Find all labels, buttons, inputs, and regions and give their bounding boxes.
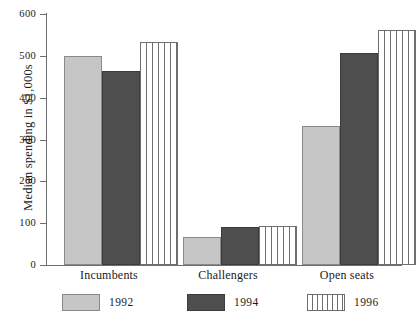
y-tick-label-500: 500 bbox=[19, 50, 36, 61]
bar-open-seats-1992 bbox=[302, 126, 340, 265]
y-tick-label-400: 400 bbox=[19, 92, 36, 103]
y-tick-0 bbox=[40, 265, 46, 266]
bar-open-seats-1994 bbox=[340, 53, 378, 266]
legend-item-1994: 1994 bbox=[187, 292, 259, 312]
bar-open-seats-1996 bbox=[378, 30, 416, 265]
bar-incumbents-1996 bbox=[140, 42, 178, 265]
legend-label-1996: 1996 bbox=[354, 296, 379, 308]
bar-challengers-1996 bbox=[259, 226, 297, 265]
bar-challengers-1994 bbox=[221, 227, 259, 265]
y-tick-label-100: 100 bbox=[19, 217, 36, 228]
legend-label-1992: 1992 bbox=[109, 296, 134, 308]
legend-swatch-1994 bbox=[187, 294, 225, 311]
legend-swatch-1996 bbox=[307, 294, 345, 311]
legend-swatch-1992 bbox=[62, 294, 100, 311]
x-group-label-open-seats: Open seats bbox=[277, 268, 417, 283]
bar-incumbents-1994 bbox=[102, 71, 140, 265]
plot-area bbox=[46, 14, 402, 265]
chart-legend: 1992 1994 1996 bbox=[0, 292, 415, 316]
y-tick-label-300: 300 bbox=[19, 134, 36, 145]
bar-challengers-1992 bbox=[183, 237, 221, 265]
x-axis-line bbox=[46, 265, 402, 266]
y-tick-label-0: 0 bbox=[30, 259, 36, 270]
legend-item-1996: 1996 bbox=[307, 292, 379, 312]
y-tick-label-200: 200 bbox=[19, 175, 36, 186]
legend-item-1992: 1992 bbox=[62, 292, 134, 312]
legend-label-1994: 1994 bbox=[234, 296, 259, 308]
bar-incumbents-1992 bbox=[64, 56, 102, 265]
y-tick-label-600: 600 bbox=[19, 8, 36, 19]
